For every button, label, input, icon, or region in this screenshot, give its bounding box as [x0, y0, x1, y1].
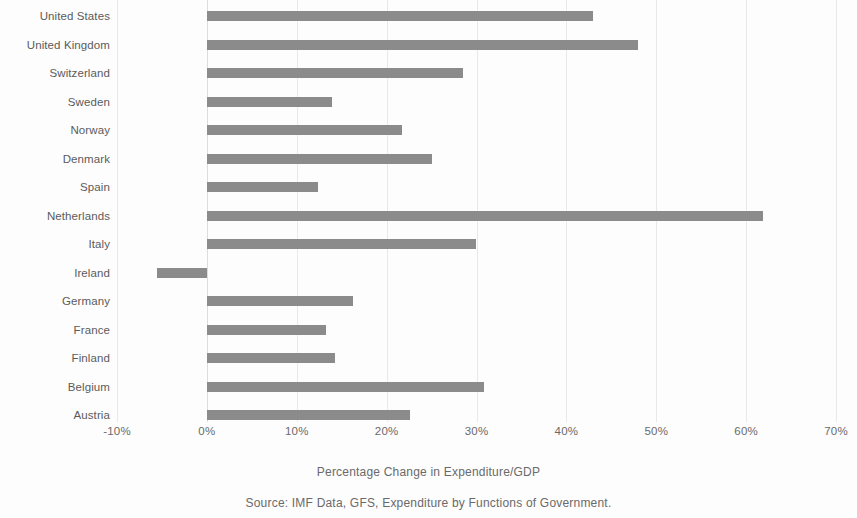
bar-belgium[interactable]	[207, 382, 484, 392]
x-tick-label: 40%	[555, 424, 579, 438]
x-tick-label: 20%	[375, 424, 399, 438]
x-tick-label: 60%	[734, 424, 758, 438]
x-axis-title: Percentage Change in Expenditure/GDP	[0, 465, 857, 479]
bar-germany[interactable]	[207, 296, 353, 306]
bar-switzerland[interactable]	[207, 68, 463, 78]
bar-norway[interactable]	[207, 125, 402, 135]
bar-row	[117, 287, 836, 316]
x-axis: -10%0%10%20%30%40%50%60%70%	[117, 424, 836, 444]
category-label-finland: Finland	[0, 352, 110, 364]
category-label-austria: Austria	[0, 409, 110, 421]
category-label-sweden: Sweden	[0, 96, 110, 108]
category-label-ireland: Ireland	[0, 267, 110, 279]
bar-france[interactable]	[207, 325, 327, 335]
category-label-spain: Spain	[0, 181, 110, 193]
category-label-netherlands: Netherlands	[0, 210, 110, 222]
bar-row	[117, 344, 836, 373]
category-label-united-kingdom: United Kingdom	[0, 39, 110, 51]
category-label-germany: Germany	[0, 295, 110, 307]
bar-row	[117, 31, 836, 60]
category-label-france: France	[0, 324, 110, 336]
bar-netherlands[interactable]	[207, 211, 763, 221]
bar-austria[interactable]	[207, 410, 410, 420]
category-label-switzerland: Switzerland	[0, 67, 110, 79]
plot-area	[117, 0, 836, 422]
x-tick-label: -10%	[103, 424, 131, 438]
bar-row	[117, 59, 836, 88]
bar-spain[interactable]	[207, 182, 318, 192]
category-label-united-states: United States	[0, 10, 110, 22]
bar-row	[117, 88, 836, 117]
bar-row	[117, 316, 836, 345]
category-label-belgium: Belgium	[0, 381, 110, 393]
bar-sweden[interactable]	[207, 97, 332, 107]
bar-row	[117, 116, 836, 145]
category-axis: United StatesUnited KingdomSwitzerlandSw…	[0, 0, 110, 422]
x-tick-label: 70%	[824, 424, 848, 438]
bar-row	[117, 373, 836, 402]
bar-row	[117, 145, 836, 174]
bar-united-kingdom[interactable]	[207, 40, 638, 50]
bar-row	[117, 202, 836, 231]
source-note: Source: IMF Data, GFS, Expenditure by Fu…	[0, 496, 857, 510]
bar-chart-figure: United StatesUnited KingdomSwitzerlandSw…	[0, 0, 857, 518]
x-tick-label: 10%	[285, 424, 309, 438]
category-label-norway: Norway	[0, 124, 110, 136]
bar-row	[117, 259, 836, 288]
category-label-denmark: Denmark	[0, 153, 110, 165]
bar-row	[117, 173, 836, 202]
bar-row	[117, 2, 836, 31]
x-tick-label: 0%	[198, 424, 215, 438]
bar-ireland[interactable]	[157, 268, 206, 278]
x-tick-label: 50%	[644, 424, 668, 438]
bar-italy[interactable]	[207, 239, 476, 249]
category-label-italy: Italy	[0, 238, 110, 250]
x-tick-label: 30%	[465, 424, 489, 438]
bar-united-states[interactable]	[207, 11, 593, 21]
bar-finland[interactable]	[207, 353, 336, 363]
bar-row	[117, 230, 836, 259]
gridline-70%	[836, 0, 837, 422]
bar-denmark[interactable]	[207, 154, 432, 164]
